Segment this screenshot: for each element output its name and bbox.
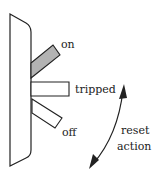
lever-off [32,99,62,128]
breaker-diagram: on tripped off reset action [0,0,159,182]
lever-on [31,45,60,78]
lever-tripped [31,82,69,96]
arrowhead-up-icon [119,84,127,99]
arrowhead-down-icon [89,154,99,169]
label-on: on [61,38,75,51]
breaker-housing [10,14,31,166]
label-off: off [62,126,78,139]
label-tripped: tripped [75,83,116,96]
label-reset: reset [121,124,150,137]
label-action: action [117,140,151,153]
